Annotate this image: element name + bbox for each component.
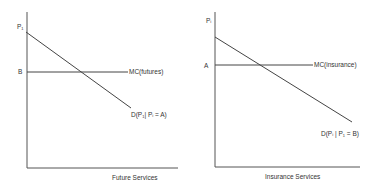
left-x-axis-label: Future Services [112,174,158,181]
right-y-axis-label: Pᵢ [206,17,211,24]
left-panel: P₁ B MC(futures) D(P₁| Pᵢ = A) Future Se… [17,12,178,181]
right-panel: Pᵢ A MC(insurance) D(Pᵢ | P₁ = B) Insura… [204,12,360,180]
right-mc-label: MC(insurance) [314,61,357,69]
right-demand-line [215,37,352,122]
diagram-canvas: P₁ B MC(futures) D(P₁| Pᵢ = A) Future Se… [0,0,383,188]
left-demand-label: D(P₁| Pᵢ = A) [131,111,167,119]
right-x-axis-label: Insurance Services [265,173,321,180]
left-mc-label: MC(futures) [129,68,163,76]
left-demand-line [26,32,131,108]
right-demand-label: D(Pᵢ | P₁ = B) [321,130,359,138]
right-price-tick-a: A [204,62,209,69]
left-y-axis-label: P₁ [17,23,24,30]
left-price-tick-b: B [18,68,22,75]
